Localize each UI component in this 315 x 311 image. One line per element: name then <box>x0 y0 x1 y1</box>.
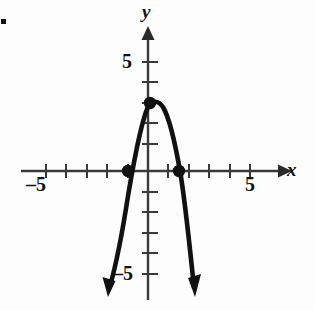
y-axis-tick-label-pos5: 5 <box>122 51 132 71</box>
point-vertex <box>144 97 156 109</box>
x-axis-tick-label-neg5: –5 <box>26 174 46 194</box>
x-axis-tick-label-pos5: 5 <box>245 174 255 194</box>
y-axis-ticks <box>142 62 158 274</box>
coordinate-plane <box>0 0 315 311</box>
point-x-intercept-right <box>173 165 185 177</box>
curve-right-arrow-icon <box>188 274 201 297</box>
y-axis-tick-label-neg5: –5 <box>113 263 133 283</box>
y-axis-arrow-icon <box>142 26 155 40</box>
x-axis-label: x <box>287 160 297 179</box>
point-x-intercept-left <box>122 165 134 177</box>
graph-figure: –5 5 5 –5 x y <box>0 0 315 311</box>
parabola-curve <box>110 102 194 287</box>
y-axis-label: y <box>142 2 150 21</box>
